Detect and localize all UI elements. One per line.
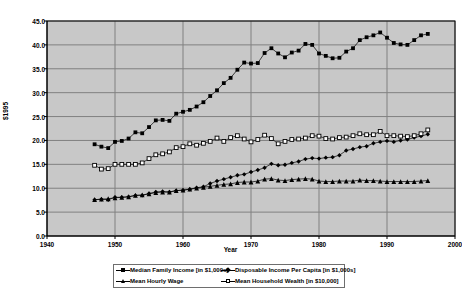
legend-item[interactable]: Mean Household Wealth [in $10,000]: [221, 277, 346, 286]
chart-legend: Median Family Income [in $1,000s] Mean H…: [113, 264, 345, 288]
x-axis-title: Year: [0, 246, 461, 253]
legend-marker-filled-diamond-icon: [221, 266, 235, 275]
legend-marker-open-square-icon: [221, 277, 235, 286]
legend-label: Median Family Income [in $1,000s]: [130, 266, 228, 275]
legend-label: Disposable Income Per Capita [in $1,000s…: [235, 266, 355, 275]
legend-item[interactable]: Median Family Income [in $1,000s]: [116, 266, 219, 275]
legend-label: Mean Hourly Wage: [130, 277, 183, 286]
legend-item[interactable]: Disposable Income Per Capita [in $1,000s…: [221, 266, 346, 275]
legend-column-left: Median Family Income [in $1,000s] Mean H…: [114, 265, 219, 287]
legend-marker-filled-triangle-icon: [116, 277, 130, 286]
legend-item[interactable]: Mean Hourly Wage: [116, 277, 219, 286]
legend-column-right: Disposable Income Per Capita [in $1,000s…: [219, 265, 346, 287]
legend-label: Mean Household Wealth [in $10,000]: [235, 277, 339, 286]
legend-marker-filled-square-icon: [116, 266, 130, 275]
